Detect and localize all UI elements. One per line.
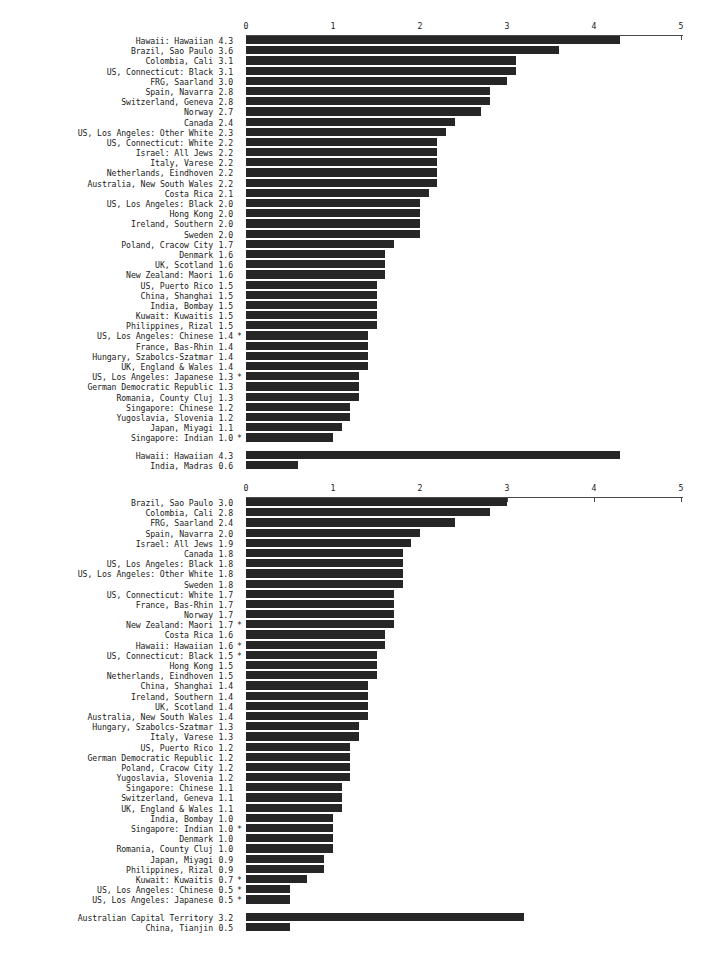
- bar-track: [246, 240, 702, 250]
- reference-row: Australian Capital Territory3.2: [0, 913, 702, 923]
- bar-track: [246, 219, 702, 229]
- reference-row: Hawaii: Hawaiian4.3: [0, 451, 702, 461]
- row-footnote-marker: *: [233, 641, 246, 651]
- bar: [246, 87, 490, 96]
- bar: [246, 569, 403, 578]
- row-footnote-marker: *: [233, 824, 246, 834]
- row-label: Hong Kong: [0, 209, 213, 219]
- bar: [246, 743, 350, 752]
- bar: [246, 433, 333, 442]
- row-label: Kuwait: Kuwaitis: [0, 311, 213, 321]
- row-footnote-marker: [233, 291, 246, 292]
- bar-track: [246, 342, 702, 352]
- axis-tick-label: 1: [331, 22, 336, 31]
- row-footnote-marker: [233, 722, 246, 723]
- row-value: 1.7: [213, 620, 233, 630]
- row-footnote-marker: [233, 461, 246, 462]
- bar-track: [246, 138, 702, 148]
- bar: [246, 362, 368, 371]
- bar-row: Hong Kong1.5: [0, 661, 702, 671]
- axis-tick-label: 2: [418, 22, 423, 31]
- bar-row: Singapore: Indian1.0*: [0, 824, 702, 834]
- row-footnote-marker: [233, 793, 246, 794]
- bar: [246, 382, 359, 391]
- row-label: Singapore: Chinese: [0, 783, 213, 793]
- bar: [246, 844, 333, 853]
- bar-row: Canada2.4: [0, 118, 702, 128]
- row-footnote-marker: [233, 600, 246, 601]
- row-value: 2.2: [213, 179, 233, 189]
- bar-track: [246, 189, 702, 199]
- bar-track: [246, 844, 702, 854]
- bar-track: [246, 168, 702, 178]
- row-value: 3.0: [213, 498, 233, 508]
- axis-tick-label: 3: [505, 22, 510, 31]
- row-label: US, Los Angeles: Black: [0, 559, 213, 569]
- bar: [246, 712, 368, 721]
- bar: [246, 270, 385, 279]
- bar-row: Hawaii: Hawaiian1.6*: [0, 641, 702, 651]
- bar-row: US, Connecticut: White1.7: [0, 590, 702, 600]
- row-footnote-marker: [233, 451, 246, 452]
- bar: [246, 600, 394, 609]
- bar-track: [246, 498, 702, 508]
- bar-track: [246, 118, 702, 128]
- axis-tick-label: 1: [331, 484, 336, 493]
- bar-track: [246, 661, 702, 671]
- bar-track: [246, 311, 702, 321]
- row-separator: [0, 444, 702, 451]
- row-value: 1.0: [213, 834, 233, 844]
- row-label: Ireland, Southern: [0, 219, 213, 229]
- row-value: 0.5: [213, 923, 233, 933]
- row-footnote-marker: [233, 498, 246, 499]
- bar-row: Israel: All Jews1.9: [0, 539, 702, 549]
- row-value: 0.7: [213, 875, 233, 885]
- bar-track: [246, 793, 702, 803]
- bar-row: US, Los Angeles: Chinese1.4*: [0, 331, 702, 341]
- row-footnote-marker: [233, 128, 246, 129]
- row-footnote-marker: [233, 865, 246, 866]
- row-footnote-marker: [233, 671, 246, 672]
- row-footnote-marker: [233, 580, 246, 581]
- row-footnote-marker: [233, 913, 246, 914]
- bar: [246, 661, 377, 670]
- bar-row: New Zealand: Maori1.6: [0, 270, 702, 280]
- bar-row: Singapore: Indian1.0*: [0, 433, 702, 443]
- axis-tick-label: 4: [592, 484, 597, 493]
- row-label: US, Connecticut: White: [0, 590, 213, 600]
- row-label: Hawaii: Hawaiian: [0, 451, 213, 461]
- axis-tick-label: 4: [592, 22, 597, 31]
- bar-track: [246, 681, 702, 691]
- row-footnote-marker: [233, 661, 246, 662]
- axis-tick-label: 0: [244, 484, 249, 493]
- bar-track: [246, 529, 702, 539]
- row-label: US, Los Angeles: Japanese: [0, 372, 213, 382]
- row-footnote-marker: [233, 844, 246, 845]
- row-value: 1.1: [213, 423, 233, 433]
- bar: [246, 885, 290, 894]
- bar: [246, 834, 333, 843]
- row-label: US, Los Angeles: Chinese: [0, 331, 213, 341]
- row-label: US, Connecticut: Black: [0, 651, 213, 661]
- row-value: 2.2: [213, 168, 233, 178]
- row-label: Kuwait: Kuwaitis: [0, 875, 213, 885]
- row-label: Norway: [0, 107, 213, 117]
- row-footnote-marker: [233, 46, 246, 47]
- row-label: China, Tianjin: [0, 923, 213, 933]
- row-value: 1.4: [213, 342, 233, 352]
- row-value: 1.1: [213, 804, 233, 814]
- bar: [246, 610, 394, 619]
- row-footnote-marker: [233, 834, 246, 835]
- row-footnote-marker: [233, 189, 246, 190]
- row-label: German Democratic Republic: [0, 382, 213, 392]
- bar: [246, 291, 377, 300]
- bar: [246, 855, 324, 864]
- row-footnote-marker: [233, 199, 246, 200]
- bar: [246, 451, 620, 461]
- bar-track: [246, 549, 702, 559]
- bar-row: Italy, Varese1.3: [0, 732, 702, 742]
- row-value: 2.8: [213, 97, 233, 107]
- bar-track: [246, 461, 702, 471]
- row-label: US, Los Angeles: Other White: [0, 128, 213, 138]
- bar: [246, 321, 377, 330]
